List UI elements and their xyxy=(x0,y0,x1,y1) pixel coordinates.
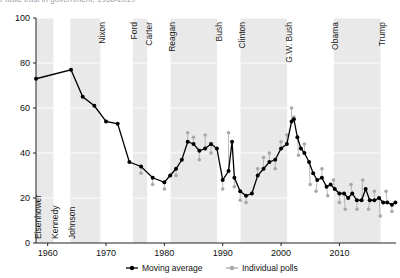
president-label-eisenhower: Eisenhower xyxy=(33,194,43,239)
president-label-carter: Carter xyxy=(144,22,154,46)
data-point xyxy=(390,203,394,207)
data-point xyxy=(174,167,178,171)
data-point xyxy=(355,207,359,211)
data-point xyxy=(104,120,108,124)
data-point xyxy=(302,151,306,155)
data-point xyxy=(373,189,377,193)
data-point xyxy=(221,178,225,182)
data-point xyxy=(192,135,196,139)
data-point xyxy=(377,196,381,200)
data-point xyxy=(385,201,389,205)
data-point xyxy=(292,117,296,121)
data-point xyxy=(273,158,277,162)
data-point xyxy=(192,142,196,146)
legend-label-individual-polls: Individual polls xyxy=(242,263,298,273)
data-point xyxy=(233,185,237,189)
data-point xyxy=(325,185,329,189)
data-point xyxy=(163,187,167,191)
data-point xyxy=(238,198,242,202)
legend-label-moving-average: Moving average xyxy=(142,263,203,273)
president-label-kennedy: Kennedy xyxy=(50,205,60,239)
data-point xyxy=(139,165,143,169)
data-point xyxy=(256,167,260,171)
y-tick-label-20: 20 xyxy=(20,193,30,203)
legend-marker-moving-average xyxy=(130,266,134,270)
president-label-nixon: Nixon xyxy=(97,22,107,44)
data-point xyxy=(285,142,289,146)
data-point xyxy=(34,77,38,81)
data-point xyxy=(315,178,319,182)
data-point xyxy=(332,178,336,182)
data-point xyxy=(238,189,242,193)
data-point xyxy=(320,167,324,171)
data-point xyxy=(209,151,213,155)
data-point xyxy=(279,147,283,151)
data-point xyxy=(367,207,371,211)
data-point xyxy=(262,156,266,160)
data-point xyxy=(209,142,213,146)
president-label-obama: Obama xyxy=(330,22,340,50)
president-band-clinton xyxy=(241,18,288,243)
data-point xyxy=(329,183,333,187)
data-point xyxy=(262,167,266,171)
x-tick-label-1970: 1970 xyxy=(96,248,116,258)
president-label-reagan: Reagan xyxy=(167,22,177,52)
data-point xyxy=(311,171,315,175)
data-point xyxy=(360,198,364,202)
data-point xyxy=(297,153,301,157)
y-tick-label-0: 0 xyxy=(25,238,30,248)
data-point xyxy=(326,194,330,198)
chart-canvas: EisenhowerKennedyJohnsonNixonFordCarterR… xyxy=(0,0,400,278)
data-point xyxy=(215,147,219,151)
data-point xyxy=(197,149,201,153)
data-point xyxy=(390,210,394,214)
data-point xyxy=(203,147,207,151)
data-point xyxy=(337,192,341,196)
x-tick-label-1990: 1990 xyxy=(213,248,233,258)
data-point xyxy=(244,194,248,198)
data-point xyxy=(350,192,354,196)
legend-marker-individual-polls xyxy=(230,266,234,270)
president-band-reagan xyxy=(170,18,217,243)
data-point xyxy=(186,131,190,135)
data-point xyxy=(151,176,155,180)
data-point xyxy=(198,158,202,162)
data-point xyxy=(393,201,397,205)
data-point xyxy=(221,187,225,191)
data-point xyxy=(361,178,365,182)
data-point xyxy=(333,187,337,191)
data-point xyxy=(273,167,277,171)
y-tick-label-80: 80 xyxy=(20,58,30,68)
trust-in-government-chart: Public trust in government, 1958-2019 Ei… xyxy=(0,0,400,278)
data-point xyxy=(378,214,382,218)
data-point xyxy=(92,104,96,108)
data-point xyxy=(69,68,73,72)
data-point xyxy=(279,140,283,144)
y-tick-label-60: 60 xyxy=(20,103,30,113)
data-point xyxy=(295,135,299,139)
x-tick-label-2010: 2010 xyxy=(329,248,349,258)
data-point xyxy=(186,140,190,144)
data-point xyxy=(232,176,236,180)
data-point xyxy=(168,174,172,178)
data-point xyxy=(244,201,248,205)
president-band-ford xyxy=(133,18,147,243)
data-point xyxy=(320,176,324,180)
data-point xyxy=(162,180,166,184)
data-point xyxy=(180,158,184,162)
data-point xyxy=(227,169,231,173)
data-point xyxy=(372,198,376,202)
chart-legend: Moving averageIndividual polls xyxy=(0,258,400,278)
data-point xyxy=(299,147,303,151)
data-point xyxy=(256,174,260,178)
data-point xyxy=(308,183,312,187)
data-point xyxy=(127,160,131,164)
x-tick-label-1960: 1960 xyxy=(38,248,58,258)
president-label-ford: Ford xyxy=(129,22,139,40)
president-label-trump: Trump xyxy=(377,22,387,47)
data-point xyxy=(364,187,368,191)
data-point xyxy=(151,183,155,187)
data-point xyxy=(343,207,347,211)
data-point xyxy=(139,171,143,175)
data-point xyxy=(338,201,342,205)
